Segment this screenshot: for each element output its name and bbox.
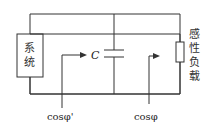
pf-after-lead [149,56,156,104]
circuit-diagram: 系 统 C 感 性 负 载 cosφ' cosφ [0,0,214,134]
capacitor-label: C [91,49,100,62]
system-label-1: 系 [24,42,35,55]
load-label-1: 感 [189,28,200,41]
pf-after-label: cosφ [134,111,158,122]
bottom-wire [30,62,180,94]
arrow-head-before [80,52,87,58]
pf-before-label: cosφ' [47,111,74,122]
system-label-2: 统 [24,56,35,69]
load-resistor [176,42,184,62]
top-wire [30,34,180,42]
arrow-head-after [153,53,160,59]
load-label-4: 载 [189,70,200,83]
load-label-2: 性 [189,41,200,55]
load-label-3: 负 [189,55,200,69]
bottom-wire-full [30,62,180,94]
top-wire-full [30,14,180,42]
pf-before-lead [62,55,80,108]
